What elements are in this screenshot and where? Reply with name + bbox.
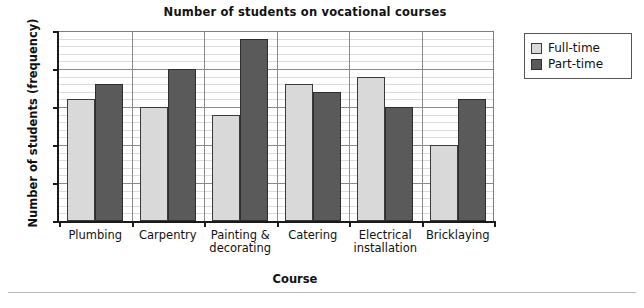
x-category-label-line: decorating: [204, 242, 277, 255]
x-tick-mark: [494, 221, 496, 227]
y-tick-mark: [53, 31, 59, 33]
gridline-group-separator: [277, 31, 278, 221]
gridline-group-separator: [132, 31, 133, 221]
x-category-label-line: Carpentry: [132, 229, 205, 242]
gridline-group-separator: [422, 31, 423, 221]
bar-part-time: [168, 69, 196, 221]
x-tick-mark: [204, 221, 206, 227]
chart-title: Number of students on vocational courses: [140, 5, 470, 19]
bar-full-time: [357, 77, 385, 221]
x-category-label: Carpentry: [132, 229, 205, 242]
bar-full-time: [67, 99, 95, 221]
x-tick-mark: [422, 221, 424, 227]
x-category-label: Electricalinstallation: [349, 229, 422, 255]
legend-item-full-time: Full-time: [531, 41, 625, 55]
bar-part-time: [458, 99, 486, 221]
y-tick-mark: [53, 107, 59, 109]
x-category-label-line: Bricklaying: [422, 229, 495, 242]
x-tick-mark: [349, 221, 351, 227]
x-category-label-line: Catering: [277, 229, 350, 242]
x-category-label: Bricklaying: [422, 229, 495, 242]
x-category-label: Catering: [277, 229, 350, 242]
bar-part-time: [385, 107, 413, 221]
bar-full-time: [140, 107, 168, 221]
gridline-group-separator: [349, 31, 350, 221]
gridline-group-separator: [204, 31, 205, 221]
legend-label-part-time: Part-time: [548, 57, 603, 71]
bar-part-time: [240, 39, 268, 221]
bar-chart-figure: Number of students on vocational courses…: [0, 0, 644, 308]
x-tick-mark: [132, 221, 134, 227]
legend-label-full-time: Full-time: [548, 41, 600, 55]
legend-swatch-part-time: [531, 59, 542, 70]
y-tick-mark: [53, 145, 59, 147]
y-tick-mark: [53, 69, 59, 71]
bar-part-time: [95, 84, 123, 221]
bar-full-time: [430, 145, 458, 221]
bar-full-time: [285, 84, 313, 221]
y-tick-mark: [53, 183, 59, 185]
legend-item-part-time: Part-time: [531, 57, 625, 71]
plot-area: 0510152025 PlumbingCarpentryPainting &de…: [57, 31, 494, 223]
y-axis-label: Number of students (frequency): [26, 13, 40, 233]
x-tick-mark: [277, 221, 279, 227]
bar-full-time: [212, 115, 240, 221]
x-tick-mark: [59, 221, 61, 227]
x-axis-label: Course: [195, 272, 395, 286]
x-category-label-line: Plumbing: [59, 229, 132, 242]
legend: Full-time Part-time: [524, 33, 632, 79]
page-divider-rule: [8, 292, 636, 293]
x-category-label-line: installation: [349, 242, 422, 255]
legend-swatch-full-time: [531, 43, 542, 54]
x-category-label: Painting &decorating: [204, 229, 277, 255]
x-category-label: Plumbing: [59, 229, 132, 242]
bar-part-time: [313, 92, 341, 221]
